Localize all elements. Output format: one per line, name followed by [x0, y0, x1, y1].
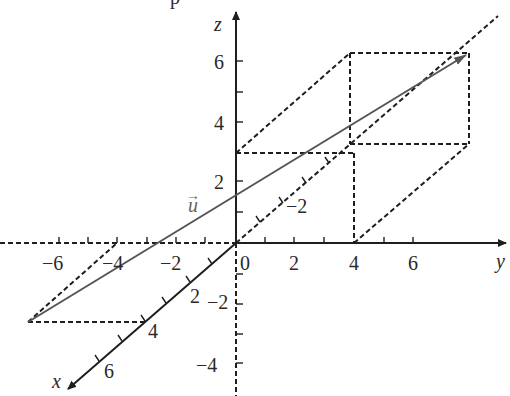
vector-arrow-icon: →	[186, 188, 200, 203]
3d-coordinate-diagram: p z y x 6 4 2 −2 −4 −6 −4 −2 0 2 4 6 2 4…	[0, 0, 510, 396]
x-tick-2: 2	[190, 285, 200, 307]
z-tick-4: 4	[214, 112, 224, 134]
y-tick-4: 4	[349, 252, 359, 274]
z-axis-ticks	[236, 61, 243, 363]
z-tick-neg2: −2	[207, 291, 228, 313]
y-tick-neg6: −6	[42, 252, 63, 274]
y-tick-2: 2	[289, 252, 299, 274]
z-tick-neg4: −4	[196, 354, 217, 376]
vector-u	[28, 55, 466, 322]
y-tick-6: 6	[408, 252, 418, 274]
x-axis-label: x	[51, 370, 61, 392]
y-tick-neg2: −2	[160, 252, 181, 274]
y-tick-neg4: −4	[102, 252, 123, 274]
y-axis-label: y	[494, 250, 505, 273]
y-tick-0: 0	[240, 252, 250, 274]
figure-title-fragment: p	[170, 0, 180, 9]
z-tick-6: 6	[214, 51, 224, 73]
x-tick-6: 6	[104, 360, 114, 382]
x-tick-neg2: −2	[286, 195, 307, 217]
x-axis-negative	[236, 16, 498, 243]
z-tick-2: 2	[214, 171, 224, 193]
x-tick-4: 4	[148, 320, 158, 342]
z-axis-label: z	[213, 13, 222, 35]
